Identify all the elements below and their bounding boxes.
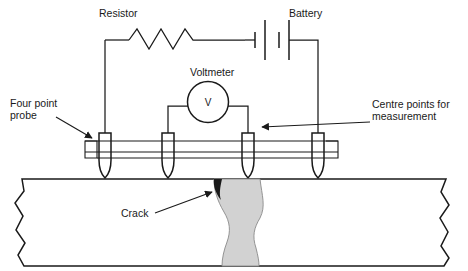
crack-shape: [214, 179, 263, 266]
centre-points-leader-arrow: [262, 122, 370, 127]
voltmeter-group: V: [168, 82, 248, 134]
wire-right-vertical: [289, 40, 318, 133]
probe-bar-group: [85, 141, 338, 158]
resistor-symbol: [129, 29, 245, 49]
four-point-probe-diagram: V: [0, 0, 468, 271]
crack-leader-arrow: [155, 192, 212, 213]
centre-points-label-line1: Centre points for: [372, 98, 450, 110]
probe-1: [99, 133, 111, 178]
battery-label: Battery: [289, 7, 323, 19]
wire-voltmeter-left: [168, 106, 188, 133]
voltmeter-label: Voltmeter: [190, 66, 235, 78]
probe-bar-right-end: [326, 141, 338, 158]
crack-group: [214, 179, 263, 266]
figure-root: V: [0, 0, 468, 271]
crack-label: Crack: [121, 207, 149, 219]
probe-2: [162, 133, 174, 178]
four-point-probe-label-line1: Four point: [10, 97, 57, 109]
probe-2-body: [162, 133, 174, 178]
four-point-probe-label-line2: probe: [10, 109, 37, 121]
probe-4-body: [312, 133, 324, 178]
centre-points-label-line2: measurement: [372, 110, 436, 122]
probe-3: [242, 133, 254, 178]
voltmeter-symbol-label: V: [205, 97, 212, 108]
probe-1-body: [99, 133, 111, 178]
probe-4: [312, 133, 324, 178]
wire-voltmeter-right: [228, 106, 248, 133]
probe-bar-left-end: [85, 141, 97, 158]
four-point-probe-leader-arrow: [56, 117, 92, 138]
resistor-label: Resistor: [99, 7, 138, 19]
probe-3-body: [242, 133, 254, 178]
